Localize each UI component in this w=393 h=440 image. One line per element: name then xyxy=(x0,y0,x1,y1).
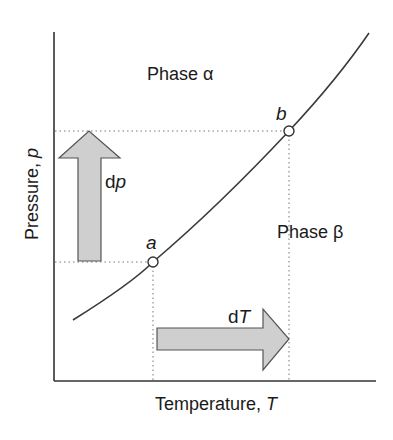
point-b-label: b xyxy=(276,103,287,124)
point-b-marker xyxy=(284,126,294,136)
dT-symbol: T xyxy=(239,306,252,327)
x-axis-label-text: Temperature, xyxy=(155,394,266,414)
phase-diagram: a b Phase α Phase β dp dT Temperature, T… xyxy=(0,0,393,440)
dT-label: dT xyxy=(228,306,252,327)
y-axis-symbol: p xyxy=(22,148,42,159)
dp-label: dp xyxy=(105,171,126,192)
y-axis-label-text: Pressure, xyxy=(22,158,42,240)
dT-arrow xyxy=(157,309,289,370)
dp-symbol: p xyxy=(115,171,127,192)
dp-prefix: d xyxy=(105,171,116,192)
phase-alpha-label: Phase α xyxy=(147,64,213,84)
phase-beta-label: Phase β xyxy=(277,222,343,242)
point-a-label: a xyxy=(146,232,157,253)
y-axis-label: Pressure, p xyxy=(22,148,42,240)
x-axis-label: Temperature, T xyxy=(155,394,279,414)
dT-prefix: d xyxy=(228,306,239,327)
dp-arrow xyxy=(59,131,120,261)
point-a-marker xyxy=(148,257,158,267)
x-axis-symbol: T xyxy=(266,394,279,414)
